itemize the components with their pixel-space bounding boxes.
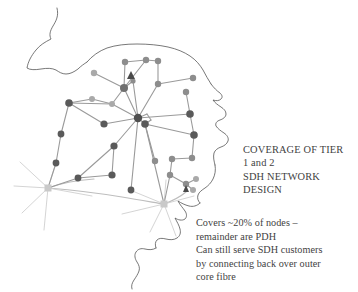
sdh-node[interactable] xyxy=(186,110,194,118)
sdh-node[interactable] xyxy=(190,75,196,81)
sdh-node[interactable] xyxy=(65,99,73,107)
ray xyxy=(22,188,48,213)
sdh-node[interactable] xyxy=(190,187,196,193)
edge xyxy=(114,118,138,146)
sdh-node[interactable] xyxy=(120,84,128,92)
edge xyxy=(69,103,112,104)
ray xyxy=(20,162,48,188)
sdh-node[interactable] xyxy=(141,120,149,128)
sdh-node[interactable] xyxy=(143,57,149,63)
edge xyxy=(138,84,158,118)
sdh-node[interactable] xyxy=(128,187,135,194)
sdh-node[interactable] xyxy=(53,160,60,167)
core-fibre-west-south xyxy=(48,188,164,204)
title-line-1: COVERAGE OF TIER xyxy=(243,143,358,156)
edge xyxy=(61,103,69,134)
core-gateway-group xyxy=(45,185,168,208)
ray xyxy=(164,204,176,236)
edge xyxy=(131,118,138,190)
sdh-node[interactable] xyxy=(91,70,97,76)
body-line-4: by connecting back over outer xyxy=(196,257,358,271)
sdh-node[interactable] xyxy=(189,155,195,161)
ray xyxy=(14,186,48,188)
coastline-southeast xyxy=(198,165,216,203)
sdh-node[interactable] xyxy=(75,175,82,182)
body-line-3: Can still serve SDH customers xyxy=(196,243,358,257)
sdh-node[interactable] xyxy=(100,120,107,127)
edge xyxy=(158,78,193,84)
title-line-2: 1 and 2 xyxy=(243,156,358,169)
sdh-node[interactable] xyxy=(89,96,95,102)
edge xyxy=(104,118,138,124)
sdh-node[interactable] xyxy=(155,81,161,87)
edge xyxy=(112,104,138,118)
body-line-1: Covers ~20% of nodes – xyxy=(196,216,358,230)
edge xyxy=(94,73,124,88)
edge xyxy=(48,163,56,188)
coastline-east xyxy=(211,84,228,165)
edge xyxy=(78,175,112,178)
sdh-node[interactable] xyxy=(155,58,161,64)
coastline-south-tail xyxy=(132,248,156,289)
sdh-node[interactable] xyxy=(183,89,189,95)
sdh-node[interactable] xyxy=(169,156,175,162)
sdh-node[interactable] xyxy=(152,158,158,164)
coverage-title-block: COVERAGE OF TIER 1 and 2 SDH NETWORK DES… xyxy=(243,143,358,197)
coverage-body-block: Covers ~20% of nodes – remainder are PDH… xyxy=(196,216,358,284)
coastline-northwest xyxy=(27,8,87,74)
sdh-node[interactable] xyxy=(134,114,142,122)
core-gateway-burst-west[interactable] xyxy=(45,185,52,192)
ray xyxy=(130,190,164,204)
sdh-node[interactable] xyxy=(108,171,115,178)
sdh-nodes-group xyxy=(53,57,199,194)
title-line-4: DESIGN xyxy=(243,183,358,196)
edge xyxy=(48,178,78,188)
sdh-node[interactable] xyxy=(130,78,135,83)
title-line-3: SDH NETWORK xyxy=(243,170,358,183)
ray xyxy=(150,204,164,232)
ray xyxy=(122,204,164,214)
body-line-2: remainder are PDH xyxy=(196,230,358,244)
sdh-node[interactable] xyxy=(167,172,173,178)
sdh-node[interactable] xyxy=(58,131,65,138)
edge xyxy=(78,146,114,178)
edge xyxy=(56,134,61,163)
sdh-node[interactable] xyxy=(122,59,128,65)
edge xyxy=(69,103,104,124)
sdh-node[interactable] xyxy=(109,101,115,107)
slide-canvas: COVERAGE OF TIER 1 and 2 SDH NETWORK DES… xyxy=(0,0,358,292)
sdh-node[interactable] xyxy=(193,176,199,182)
edge xyxy=(112,146,114,175)
edge xyxy=(145,124,194,135)
core-gateway-burst-south[interactable] xyxy=(161,201,168,208)
sdh-node[interactable] xyxy=(190,131,198,139)
sdh-node[interactable] xyxy=(110,142,117,149)
ray xyxy=(44,188,48,230)
body-line-5: core fibre xyxy=(196,270,358,284)
